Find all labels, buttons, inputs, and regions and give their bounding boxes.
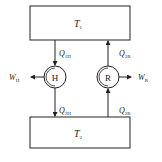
label-wr: WR [138, 73, 149, 83]
cold-reservoir: T2 [30, 117, 130, 148]
label-q2r: Q2R [119, 106, 131, 116]
label-q2h: Q2H [59, 106, 71, 116]
label-q1h: Q1H [59, 49, 71, 59]
refrigerator-r: R [97, 41, 131, 117]
svg-text:H: H [52, 73, 59, 83]
heat-engine-diagram: T1 T2 H R Q1H Q2H WH Q2R Q1R WR [0, 0, 162, 162]
svg-text:R: R [105, 73, 111, 83]
label-q1r: Q1R [119, 49, 131, 59]
label-wh: WH [9, 73, 20, 83]
hot-reservoir: T1 [30, 6, 130, 40]
